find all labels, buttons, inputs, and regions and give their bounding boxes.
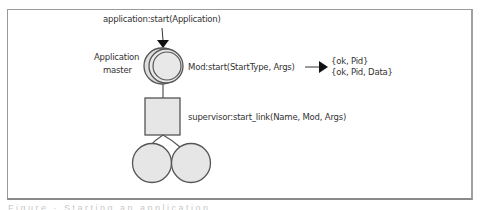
worker-node	[172, 144, 211, 183]
return-value-ok-pid: {ok, Pid}	[331, 56, 368, 66]
application-start-label: application:start(Application)	[103, 14, 221, 24]
supervisor-start-link-label: supervisor:start_link(Name, Mod, Args)	[188, 112, 346, 122]
mod-start-label: Mod:start(StartType, Args)	[188, 62, 295, 72]
figure-caption: Figure · Starting an application	[8, 203, 211, 210]
worker-node	[133, 144, 172, 183]
application-master-label: Application	[94, 52, 139, 62]
return-value-ok-pid-data: {ok, Pid, Data}	[331, 67, 393, 77]
supervisor-node	[145, 98, 180, 135]
right-arrow-icon	[305, 61, 328, 73]
down-arrow-icon	[157, 28, 169, 48]
link-line	[163, 135, 180, 147]
application-master-label-line2: master	[103, 65, 132, 75]
application-master-node	[144, 48, 183, 84]
application-start-diagram	[0, 0, 482, 210]
